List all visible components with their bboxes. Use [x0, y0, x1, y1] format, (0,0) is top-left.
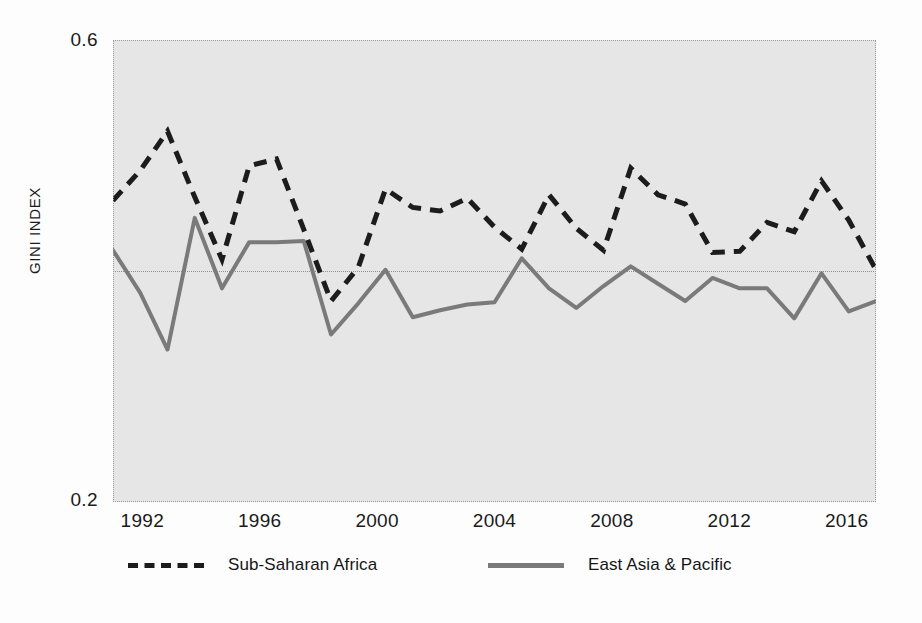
legend-item-east-asia-pacific: East Asia & Pacific — [488, 552, 732, 578]
x-axis-ticks: 1992199620002004200820122016 — [0, 510, 922, 540]
x-tick-label-2008: 2008 — [577, 510, 647, 532]
x-tick-label-1996: 1996 — [225, 510, 295, 532]
solid-line-swatch-icon — [488, 563, 564, 568]
series-canvas — [113, 40, 876, 502]
legend-label-0: Sub-Saharan Africa — [228, 555, 377, 575]
dashed-line-swatch-icon — [128, 563, 204, 568]
chart-page: 0.6 0.2 GINI INDEX 199219962000200420082… — [0, 0, 922, 623]
legend-item-sub-saharan-africa: Sub-Saharan Africa — [128, 552, 377, 578]
x-tick-label-2016: 2016 — [812, 510, 882, 532]
legend-label-1: East Asia & Pacific — [588, 555, 732, 575]
y-tick-label-top: 0.6 — [38, 29, 98, 51]
y-axis-title: GINI INDEX — [26, 151, 43, 311]
x-tick-label-1992: 1992 — [107, 510, 177, 532]
x-tick-label-2004: 2004 — [460, 510, 530, 532]
y-tick-label-bottom: 0.2 — [38, 489, 98, 511]
x-tick-label-2000: 2000 — [342, 510, 412, 532]
chart-legend: Sub-Saharan Africa East Asia & Pacific — [0, 552, 922, 586]
x-tick-label-2012: 2012 — [694, 510, 764, 532]
